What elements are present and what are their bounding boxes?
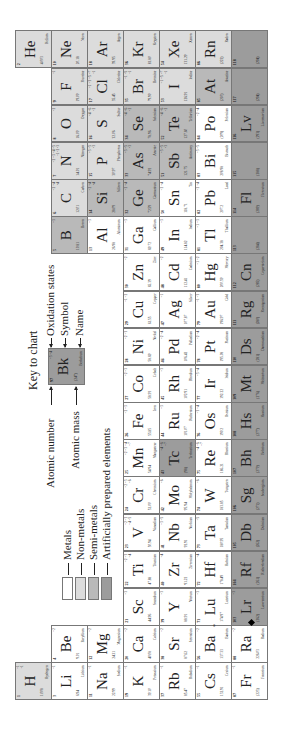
symbol: Sg — [239, 478, 254, 514]
atomic-number: 1 — [17, 695, 21, 697]
atomic-number: 85 — [197, 98, 201, 102]
atomic-number: 108 — [233, 431, 237, 437]
element-cell-li: 3+1Li6.94Lithium — [51, 662, 88, 700]
element-name: Oxygen — [82, 108, 86, 119]
atomic-mass: 12.01 — [77, 205, 81, 213]
symbol: Ga — [131, 217, 146, 253]
oxidation-states: +3 — [161, 405, 165, 409]
symbol: Ir — [203, 366, 218, 402]
name-arrow-icon — [80, 338, 81, 347]
atomic-mass: 121.75 — [185, 166, 189, 176]
element-name: Rhenium — [226, 442, 230, 455]
atomic-number: 110 — [233, 357, 237, 363]
element-cell-f: 9-1F19.00Fluorine — [51, 68, 88, 106]
element-name: Cobalt — [154, 368, 158, 377]
legend-swatch-semimetals — [88, 577, 99, 600]
element-cell-pt: 78+2 +4Pt195.08Platinum — [195, 328, 232, 366]
element-cell-zr: 40+4Zr91.22Zirconium — [159, 551, 196, 589]
atomic-number: 46 — [161, 358, 165, 362]
oxidation-states: -1 — [53, 71, 57, 74]
symbol: Mt — [239, 366, 254, 402]
atomic-mass: 54.94 — [149, 465, 153, 473]
element-cell-z117: 117(294) — [231, 68, 268, 106]
element-name: Lutetium — [226, 591, 230, 604]
element-cell-se: 34+4 +6 -2Se78.96Selenium — [123, 105, 160, 143]
atomic-number: 15 — [89, 173, 93, 177]
oxidation-states: +3 — [161, 368, 165, 372]
atomic-number: 4 — [53, 658, 57, 660]
atomic-mass: 58.93 — [149, 391, 153, 399]
element-cell-z118: 118(294) — [231, 30, 268, 68]
element-cell-ds: 110Ds(281)Darmstadtium — [231, 328, 268, 366]
atomic-mass: 101.07 — [185, 426, 189, 436]
atomic-number: 38 — [161, 656, 165, 660]
element-cell-kr: 36Kr83.80Krypton — [123, 30, 160, 68]
atomic-mass: (294) — [257, 94, 261, 102]
oxidation-states: +3 — [89, 219, 93, 223]
element-name: Argon — [118, 33, 122, 42]
atomic-mass: 26.98 — [113, 242, 117, 250]
atomic-mass: 204.38 — [221, 240, 225, 250]
atomic-mass: 91.22 — [185, 577, 189, 585]
symbol: Fl — [239, 180, 254, 216]
key-title: Key to chart — [27, 331, 39, 390]
oxidation-states: +3 — [161, 219, 165, 223]
oxidation-states: +1 +2 — [125, 294, 129, 302]
element-cell-tl: 81+1 +3Tl204.38Thallium — [195, 216, 232, 254]
atomic-number: 23 — [125, 544, 129, 548]
atomic-number: 47 — [161, 321, 165, 325]
symbol: Cl — [95, 69, 110, 105]
oxidation-states: +6 — [161, 480, 165, 484]
symbol: Bh — [239, 440, 254, 476]
symbol: Ag — [167, 292, 182, 328]
atomic-number: 105 — [233, 542, 237, 548]
symbol: Cu — [131, 292, 146, 328]
legend-swatch-artificial — [101, 577, 112, 600]
atomic-number: 25 — [125, 470, 129, 474]
atomic-mass: 131.29 — [185, 55, 189, 65]
atomic-number: 114 — [233, 208, 237, 214]
element-cell-os: 76+3 +4Os190.2Osmium — [195, 402, 232, 440]
oxidation-states: +1 — [233, 665, 237, 669]
element-cell-co: 27+2 +3Co58.93Cobalt — [123, 365, 160, 403]
element-cell-ge: 32+2 +4Ge72.59Germanium — [123, 179, 160, 217]
atomic-number: 53 — [161, 98, 165, 102]
element-name: Yttrium — [190, 591, 194, 602]
symbol: Rn — [203, 31, 218, 67]
atomic-mass: (223) — [257, 688, 261, 696]
element-name: Niobium — [190, 517, 194, 529]
oxidation-states: +3 — [161, 591, 165, 595]
element-name: Gold — [226, 294, 230, 301]
key-sample-atomic-number: 97 — [50, 378, 54, 382]
atomic-mass: 200.59 — [221, 278, 225, 288]
atomic-number: 24 — [125, 507, 129, 511]
element-cell-ar: 18Ar39.95Argon — [87, 30, 124, 68]
key-label-atomic-mass: Atomic mass — [70, 411, 81, 469]
element-name: Platinum — [226, 331, 230, 344]
atomic-mass: 14.01 — [77, 168, 81, 176]
symbol: Kr — [131, 31, 146, 67]
atomic-mass: 112.41 — [185, 278, 189, 288]
element-name: Gallium — [154, 219, 158, 230]
symbol: Pb — [203, 180, 218, 216]
symbol: Hg — [203, 254, 218, 290]
element-name: Aluminum — [118, 219, 122, 234]
oxidation-states: +1 — [125, 665, 129, 669]
oxidation-states: +2 +3 — [125, 405, 129, 413]
element-name: Flerovium — [262, 182, 266, 197]
atomic-number: 12 — [89, 656, 93, 660]
atomic-number: 13 — [89, 247, 93, 251]
element-cell-ir: 77+3 +4Ir192.22Iridium — [195, 365, 232, 403]
atomic-number: 21 — [125, 619, 129, 623]
key-label-symbol: Symbol — [59, 302, 70, 336]
oxidation-states: +2 — [53, 628, 57, 632]
symbol: S — [95, 106, 110, 142]
element-name: Lead — [226, 182, 230, 189]
oxidation-states: +3 — [197, 591, 201, 595]
symbol: Os — [203, 403, 218, 439]
atomic-mass: 72.59 — [149, 205, 153, 213]
symbol: Mg — [95, 626, 110, 662]
symbol: In — [167, 217, 182, 253]
legend-swatch-nonmetals — [75, 577, 86, 600]
atomic-mass: 22.99 — [113, 688, 117, 696]
